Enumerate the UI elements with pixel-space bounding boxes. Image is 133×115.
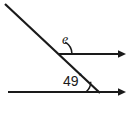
geometry-canvas <box>0 0 133 115</box>
degree-symbol-icon: ° <box>79 72 83 82</box>
transversal-line <box>5 4 100 93</box>
angle-label-e: e <box>62 33 68 47</box>
angle-label-49-degrees: 49° <box>63 73 82 88</box>
upper-ray-arrow-icon <box>118 50 126 57</box>
angle-value-49: 49 <box>63 73 79 89</box>
lower-ray-arrow-icon <box>118 88 126 95</box>
geometry-figure: e 49° <box>0 0 133 115</box>
